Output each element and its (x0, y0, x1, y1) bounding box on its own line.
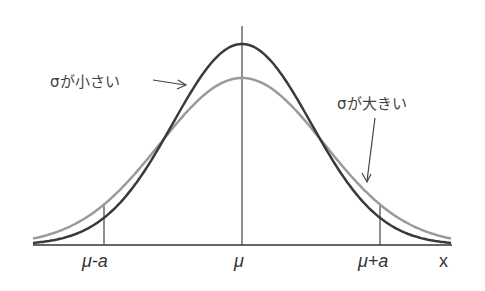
small-sigma-arrow-icon (153, 80, 186, 89)
tick-mu-plus-a: μ+a (358, 251, 388, 272)
normal-distribution-plot (0, 0, 485, 291)
x-axis-label: x (439, 251, 448, 272)
large-sigma-arrow-icon (362, 118, 375, 182)
tick-mu-minus-a: μ-a (82, 251, 108, 272)
small-sigma-label: σが小さい (50, 70, 120, 91)
large-sigma-label: σが大きい (337, 92, 407, 113)
tick-mu: μ (234, 251, 244, 272)
